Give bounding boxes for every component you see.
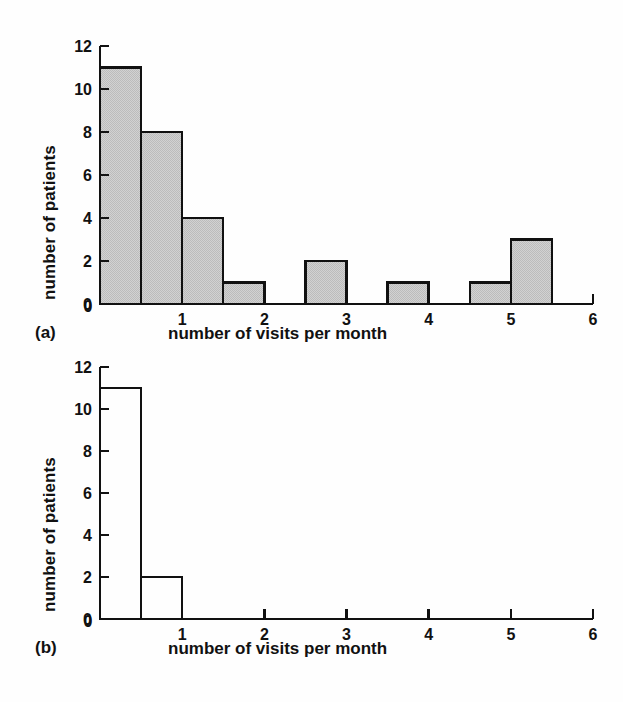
y-axis-title-b: number of patients (40, 457, 60, 612)
histogram-bar (100, 68, 141, 305)
x-tick-label: 0 (84, 298, 93, 315)
x-tick-label: 5 (506, 311, 515, 328)
histogram-bar (511, 240, 552, 305)
histogram-bar (141, 132, 182, 304)
chart-panel-a: 0246810120123456 number of patients numb… (0, 0, 623, 351)
chart-panel-b: 0246810120123456 number of patients numb… (0, 351, 623, 702)
y-tick-label: 4 (83, 527, 92, 544)
figure-page: 0246810120123456 number of patients numb… (0, 0, 623, 702)
panel-label-a: (a) (35, 323, 56, 343)
x-tick-label: 6 (589, 311, 598, 328)
x-tick-label: 5 (506, 626, 515, 643)
histogram-bar (100, 388, 141, 619)
panel-label-b: (b) (35, 638, 57, 658)
histogram-bar (141, 577, 182, 619)
y-axis-title-a: number of patients (40, 145, 60, 300)
y-tick-label: 8 (83, 124, 92, 141)
y-tick-label: 8 (83, 443, 92, 460)
x-tick-label: 0 (84, 613, 93, 630)
axes-b (100, 367, 593, 619)
histogram-bars-b (100, 388, 182, 619)
y-tick-label: 10 (74, 81, 92, 98)
y-tick-label: 12 (74, 359, 92, 376)
y-tick-label: 6 (83, 167, 92, 184)
x-tick-label: 4 (424, 626, 433, 643)
x-axis-title-b: number of visits per month (168, 639, 387, 659)
histogram-bar (470, 283, 511, 305)
y-tick-label: 2 (83, 569, 92, 586)
histogram-bar (182, 218, 223, 304)
histogram-bars-a (100, 68, 552, 305)
x-tick-label: 6 (589, 626, 598, 643)
y-tick-label: 4 (83, 210, 92, 227)
y-tick-label: 6 (83, 485, 92, 502)
histogram-bar (223, 283, 264, 305)
histogram-bar (388, 283, 429, 305)
y-tick-label: 12 (74, 38, 92, 55)
histogram-bar (305, 261, 346, 304)
x-tick-label: 4 (424, 311, 433, 328)
y-tick-label: 10 (74, 401, 92, 418)
x-axis-title-a: number of visits per month (168, 324, 387, 344)
y-ticks-b: 024681012 (74, 359, 109, 628)
histogram-a-plot: 0246810120123456 (0, 0, 623, 351)
y-tick-label: 2 (83, 253, 92, 270)
x-ticks-b: 0123456 (84, 609, 598, 643)
